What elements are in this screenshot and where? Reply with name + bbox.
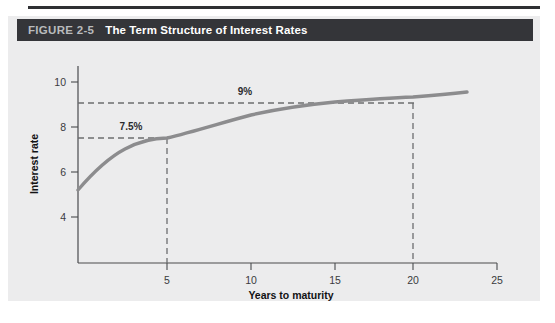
x-tick-label-20: 20: [407, 274, 419, 286]
chart-plot-area: 10 8 6 4 5 10 15 20 25: [8, 16, 540, 301]
chart-y-ticks: [71, 82, 78, 217]
annotation-label-9pct: 9%: [238, 86, 253, 97]
y-tick-label-8: 8: [60, 121, 66, 133]
y-tick-label-4: 4: [60, 211, 66, 223]
y-tick-label-10: 10: [54, 76, 66, 88]
x-tick-label-15: 15: [329, 274, 341, 286]
x-tick-label-10: 10: [245, 274, 257, 286]
chart-x-tick-labels: 5 10 15 20 25: [164, 274, 503, 286]
x-axis-title: Years to maturity: [248, 289, 333, 301]
chart-annotations: 9% 7.5%: [120, 86, 253, 132]
y-tick-label-6: 6: [60, 166, 66, 178]
annotation-label-75pct: 7.5%: [120, 121, 143, 132]
x-tick-label-25: 25: [491, 274, 503, 286]
chart-series-yield-curve: [78, 92, 467, 190]
page-top-rule: [28, 6, 540, 9]
figure-panel: FIGURE 2-5 The Term Structure of Interes…: [8, 16, 540, 301]
y-axis-title: Interest rate: [28, 134, 40, 194]
chart-y-tick-labels: 10 8 6 4: [54, 76, 66, 223]
x-tick-label-5: 5: [164, 274, 170, 286]
chart-x-ticks: [167, 263, 497, 270]
